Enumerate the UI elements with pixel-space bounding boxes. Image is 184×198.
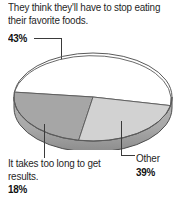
callout-percent-bottom-right: 39% [136, 166, 155, 178]
callout-label-bottom-left: It takes too long to get results. [8, 157, 102, 183]
leader-line-bottom-left [44, 124, 45, 158]
pie-graphic [12, 44, 174, 150]
callout-label-bottom-right: Other [136, 152, 160, 165]
pie-svg [12, 44, 174, 150]
callout-percent-bottom-left: 18% [8, 183, 27, 195]
pie-chart-figure: They think they'll have to stop eating t… [0, 0, 184, 198]
leader-line-bottom-right-horizontal [121, 155, 135, 156]
callout-percent-top: 43% [8, 32, 27, 44]
leader-line-top-horizontal [34, 38, 62, 39]
leader-line-bottom-right-vertical [121, 121, 122, 156]
callout-label-top: They think they'll have to stop eating t… [8, 1, 170, 27]
